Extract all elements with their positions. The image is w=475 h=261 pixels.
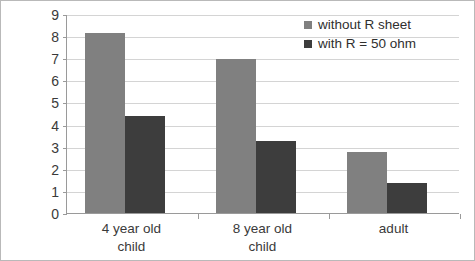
bar-group (67, 15, 198, 213)
bar-0 (85, 33, 125, 213)
y-tick-mark (63, 214, 67, 215)
y-tick-label: 2 (19, 163, 59, 177)
x-tick-mark (460, 214, 461, 219)
legend-item-label: with R = 50 ohm (318, 37, 416, 51)
legend-item-label: without R sheet (318, 18, 411, 32)
x-tick-label-line: 4 year old (66, 220, 197, 238)
x-tick-mark (198, 214, 199, 219)
x-tick-label-line: adult (328, 220, 459, 238)
x-tick-mark (329, 214, 330, 219)
y-tick-label: 4 (19, 119, 59, 133)
bar-1 (256, 141, 296, 213)
bar-chart-figure: 0123456789 4 year oldchild8 year oldchil… (0, 0, 475, 261)
bar-1 (125, 116, 165, 213)
y-axis: 0123456789 (1, 15, 59, 214)
y-tick-label: 3 (19, 141, 59, 155)
y-tick-label: 6 (19, 74, 59, 88)
x-axis: 4 year oldchild8 year oldchildadult (66, 220, 459, 260)
legend-item[interactable]: without R sheet (304, 15, 454, 34)
bar-1 (387, 183, 427, 213)
legend-item[interactable]: with R = 50 ohm (304, 34, 454, 53)
y-tick-label: 8 (19, 30, 59, 44)
bar-0 (216, 59, 256, 213)
y-tick-label: 5 (19, 96, 59, 110)
y-tick-label: 1 (19, 185, 59, 199)
legend-swatch-without-r-sheet (304, 21, 312, 29)
x-tick-label-line: child (66, 238, 197, 256)
x-tick-label-line: child (197, 238, 328, 256)
x-tick-label-line: 8 year old (197, 220, 328, 238)
y-tick-label: 0 (19, 207, 59, 221)
y-tick-label: 9 (19, 8, 59, 22)
bar-0 (347, 152, 387, 213)
y-tick-label: 7 (19, 52, 59, 66)
x-tick-label: 8 year oldchild (197, 220, 328, 256)
x-tick-label: adult (328, 220, 459, 238)
legend-swatch-with-r-50-ohm (304, 40, 312, 48)
x-tick-label: 4 year oldchild (66, 220, 197, 256)
chart-legend: without R sheetwith R = 50 ohm (304, 15, 454, 53)
